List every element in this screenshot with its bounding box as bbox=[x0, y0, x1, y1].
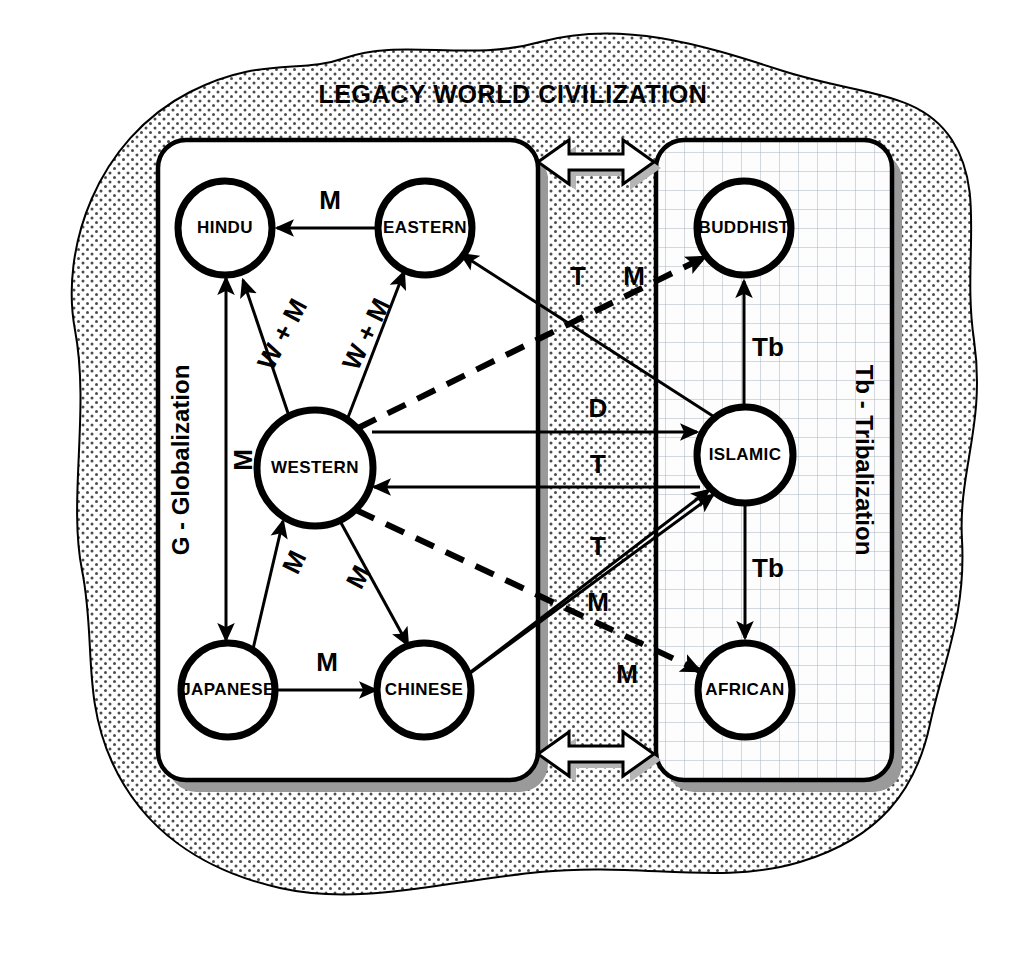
node-eastern[interactable]: EASTERN bbox=[378, 181, 472, 275]
edge-label-eastern-hindu: M bbox=[319, 185, 341, 215]
edge-label-japanese-islamic: M bbox=[587, 587, 609, 617]
node-western[interactable]: WESTERN bbox=[257, 410, 373, 526]
node-label-buddhist: BUDDHIST bbox=[698, 218, 789, 237]
node-japanese[interactable]: JAPANESE bbox=[181, 643, 275, 737]
left-panel-label: G - Globalization bbox=[167, 365, 194, 556]
node-chinese[interactable]: CHINESE bbox=[377, 643, 471, 737]
node-label-western: WESTERN bbox=[271, 458, 359, 477]
edge-label-islamic-buddhist: Tb bbox=[752, 332, 784, 362]
node-label-chinese: CHINESE bbox=[385, 680, 463, 699]
node-hindu[interactable]: HINDU bbox=[178, 181, 272, 275]
node-label-african: AFRICAN bbox=[705, 680, 784, 699]
node-african[interactable]: AFRICAN bbox=[698, 643, 792, 737]
node-label-hindu: HINDU bbox=[197, 218, 253, 237]
edge-label-islamic-western: T bbox=[590, 449, 606, 479]
node-buddhist[interactable]: BUDDHIST bbox=[697, 181, 791, 275]
node-label-eastern: EASTERN bbox=[383, 218, 467, 237]
edge-label-islamic-african: Tb bbox=[752, 553, 784, 583]
edge-label-western-african: M bbox=[616, 659, 638, 689]
edge-label-islamic-eastern: T bbox=[570, 261, 586, 291]
right-panel-label: Tb - Tribalization bbox=[851, 365, 878, 556]
edge-label-japanese-chinese: M bbox=[316, 647, 338, 677]
diagram-canvas: LEGACY WORLD CIVILIZATION G - Globalizat… bbox=[0, 0, 1026, 980]
node-label-islamic: ISLAMIC bbox=[709, 445, 782, 464]
node-islamic[interactable]: ISLAMIC bbox=[697, 407, 793, 503]
node-label-japanese: JAPANESE bbox=[181, 680, 275, 699]
edge-label-western-buddhist: M bbox=[623, 261, 645, 291]
edge-label-western-islamic: D bbox=[589, 393, 608, 423]
edge-label-hindu-japanese: M bbox=[228, 449, 258, 471]
diagram-title: LEGACY WORLD CIVILIZATION bbox=[318, 80, 707, 108]
edge-label-chinese-islamic: T bbox=[590, 531, 606, 561]
